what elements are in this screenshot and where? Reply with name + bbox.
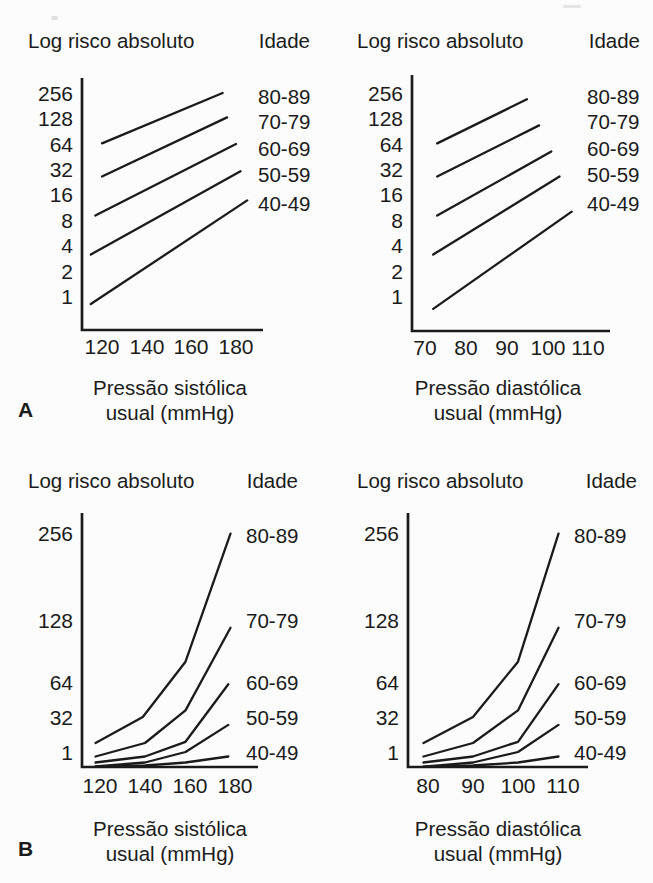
age-label-60-69: 60-69 <box>258 137 310 160</box>
y-tick-1: 1 <box>61 285 73 308</box>
series-line-70-79 <box>102 117 227 176</box>
legend-title: Idade <box>586 469 637 492</box>
age-label-50-59: 50-59 <box>258 163 310 186</box>
series-line-60-69 <box>437 152 551 216</box>
chart-a-diastolic: 80-8970-7960-6950-5940-49256128643216842… <box>330 0 653 440</box>
x-tick-120: 120 <box>84 335 119 358</box>
y-tick-32: 32 <box>376 706 399 729</box>
figure-caption-cropped: Figura 11.1 Riscos absolutos <box>24 866 630 881</box>
age-label-70-79: 70-79 <box>258 110 310 133</box>
y-tick-256: 256 <box>38 522 73 545</box>
x-tick-90: 90 <box>495 336 518 359</box>
scan-artifact-dash <box>563 5 581 8</box>
x-tick-180: 180 <box>218 335 253 358</box>
x-axis-label-line1: Pressão sistólica <box>93 376 247 399</box>
panel-title: Log risco absoluto <box>357 29 523 52</box>
scan-artifact-smudge <box>51 16 58 20</box>
series-line-70-79 <box>437 125 539 176</box>
section-label-A: A <box>18 398 33 421</box>
x-axis-label-line2: usual (mmHg) <box>434 842 563 865</box>
x-axis-label-line2: usual (mmHg) <box>106 401 235 424</box>
y-tick-1: 1 <box>387 741 399 764</box>
age-label-60-69: 60-69 <box>246 671 298 694</box>
y-tick-4: 4 <box>61 234 73 257</box>
age-label-50-59: 50-59 <box>574 706 626 729</box>
x-axis-label-line2: usual (mmHg) <box>106 842 235 865</box>
x-axis-label-line1: Pressão sistólica <box>93 817 247 840</box>
x-tick-80: 80 <box>454 336 477 359</box>
age-label-40-49: 40-49 <box>258 192 310 215</box>
x-tick-140: 140 <box>129 335 164 358</box>
x-tick-100: 100 <box>530 336 565 359</box>
x-axis-label-line2: usual (mmHg) <box>434 401 563 424</box>
age-label-70-79: 70-79 <box>574 609 626 632</box>
x-tick-110: 110 <box>546 774 579 797</box>
age-label-70-79: 70-79 <box>246 609 298 632</box>
x-tick-140: 140 <box>127 774 162 797</box>
axes <box>412 75 610 331</box>
series-line-80-89 <box>437 99 527 143</box>
y-tick-1: 1 <box>61 741 73 764</box>
y-tick-8: 8 <box>61 209 73 232</box>
y-tick-32: 32 <box>50 706 73 729</box>
caption-text-fragment: 11.1 Riscos absolutos <box>82 877 272 881</box>
y-tick-16: 16 <box>380 183 403 206</box>
age-label-80-89: 80-89 <box>246 524 298 547</box>
y-tick-128: 128 <box>364 609 399 632</box>
y-tick-256: 256 <box>38 82 73 105</box>
x-tick-80: 80 <box>416 774 439 797</box>
y-tick-128: 128 <box>368 107 403 130</box>
series-line-50-59 <box>91 171 241 254</box>
y-tick-64: 64 <box>50 133 74 156</box>
chart-a-systolic: 80-8970-7960-6950-5940-49256128643216842… <box>0 0 326 440</box>
y-tick-128: 128 <box>38 609 73 632</box>
age-label-50-59: 50-59 <box>587 163 639 186</box>
y-tick-32: 32 <box>380 158 403 181</box>
axes <box>408 513 588 767</box>
x-axis-label-line1: Pressão diastólica <box>415 817 582 840</box>
age-label-80-89: 80-89 <box>574 524 626 547</box>
y-tick-64: 64 <box>376 671 400 694</box>
y-tick-16: 16 <box>50 183 73 206</box>
y-tick-128: 128 <box>38 107 73 130</box>
y-tick-32: 32 <box>50 158 73 181</box>
age-label-80-89: 80-89 <box>587 85 639 108</box>
age-label-60-69: 60-69 <box>574 671 626 694</box>
age-label-80-89: 80-89 <box>258 85 310 108</box>
y-tick-64: 64 <box>50 671 74 694</box>
series-line-40-49 <box>433 212 572 309</box>
age-label-50-59: 50-59 <box>246 706 298 729</box>
legend-title: Idade <box>247 469 298 492</box>
axes <box>82 513 258 767</box>
x-tick-70: 70 <box>413 336 436 359</box>
x-tick-180: 180 <box>217 774 252 797</box>
y-tick-256: 256 <box>364 522 399 545</box>
y-tick-256: 256 <box>368 82 403 105</box>
y-tick-64: 64 <box>380 133 404 156</box>
age-label-70-79: 70-79 <box>587 110 639 133</box>
age-label-40-49: 40-49 <box>587 192 639 215</box>
x-tick-90: 90 <box>461 774 484 797</box>
section-label-B: B <box>18 837 33 860</box>
scanned-figure-page: 80-8970-7960-6950-5940-49256128643216842… <box>0 0 653 883</box>
y-tick-2: 2 <box>61 260 73 283</box>
x-tick-100: 100 <box>500 774 535 797</box>
x-axis-label-line1: Pressão diastólica <box>415 376 582 399</box>
x-tick-160: 160 <box>173 335 208 358</box>
series-line-40-49 <box>91 200 247 304</box>
series-line-80-89 <box>102 93 223 143</box>
legend-title: Idade <box>259 29 310 52</box>
series-line-50-59 <box>433 177 559 255</box>
x-tick-110: 110 <box>571 336 604 359</box>
age-label-60-69: 60-69 <box>587 137 639 160</box>
panel-title: Log risco absoluto <box>357 469 523 492</box>
panel-title: Log risco absoluto <box>28 29 194 52</box>
chart-b-systolic: 80-8970-7960-6950-5940-49256128643211201… <box>0 440 326 866</box>
chart-b-diastolic: 80-8970-7960-6950-5940-49256128643218090… <box>330 440 653 866</box>
y-tick-2: 2 <box>391 260 403 283</box>
series-line-80-89 <box>96 534 231 743</box>
legend-title: Idade <box>589 29 640 52</box>
panel-title: Log risco absoluto <box>28 469 194 492</box>
age-label-40-49: 40-49 <box>574 741 626 764</box>
x-tick-120: 120 <box>82 774 117 797</box>
